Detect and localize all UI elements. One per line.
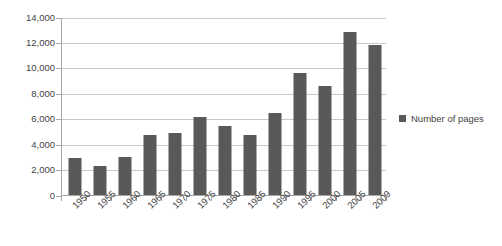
bar[interactable] bbox=[368, 45, 381, 195]
y-axis-tick-label: 2,000 bbox=[0, 165, 55, 175]
bar-slot bbox=[112, 18, 137, 195]
bar[interactable] bbox=[168, 133, 181, 195]
bar-slot bbox=[87, 18, 112, 195]
bar-chart: 02,0004,0006,0008,00010,00012,00014,000 … bbox=[0, 0, 502, 246]
y-axis-tick-label: 0 bbox=[0, 191, 55, 201]
bar-slot bbox=[337, 18, 362, 195]
bar[interactable] bbox=[293, 73, 306, 195]
bar[interactable] bbox=[93, 166, 106, 195]
y-axis-tick-label: 6,000 bbox=[0, 114, 55, 124]
bar-slot bbox=[137, 18, 162, 195]
y-axis-tick-label: 4,000 bbox=[0, 140, 55, 150]
legend: Number of pages bbox=[399, 113, 484, 124]
legend-label-number-of-pages: Number of pages bbox=[411, 113, 484, 124]
bar-slot bbox=[62, 18, 87, 195]
bar-slot bbox=[262, 18, 287, 195]
bar-slot bbox=[162, 18, 187, 195]
bar[interactable] bbox=[343, 32, 356, 195]
bar[interactable] bbox=[243, 135, 256, 195]
bar[interactable] bbox=[143, 135, 156, 195]
bar[interactable] bbox=[193, 117, 206, 195]
x-axis-tick-mark bbox=[61, 196, 62, 201]
bar[interactable] bbox=[268, 113, 281, 195]
plot-area bbox=[61, 18, 386, 196]
bar-slot bbox=[362, 18, 387, 195]
bar-slot bbox=[212, 18, 237, 195]
bar-slot bbox=[187, 18, 212, 195]
y-axis-tick-label: 10,000 bbox=[0, 63, 55, 73]
bar[interactable] bbox=[318, 86, 331, 195]
legend-swatch-number-of-pages bbox=[399, 115, 406, 122]
y-axis-tick-label: 12,000 bbox=[0, 38, 55, 48]
bar[interactable] bbox=[218, 126, 231, 195]
bar[interactable] bbox=[118, 157, 131, 195]
y-axis-tick-label: 8,000 bbox=[0, 89, 55, 99]
bar-slot bbox=[312, 18, 337, 195]
bar-slot bbox=[287, 18, 312, 195]
y-axis-tick-label: 14,000 bbox=[0, 13, 55, 23]
bar-slot bbox=[237, 18, 262, 195]
bar[interactable] bbox=[68, 158, 81, 196]
